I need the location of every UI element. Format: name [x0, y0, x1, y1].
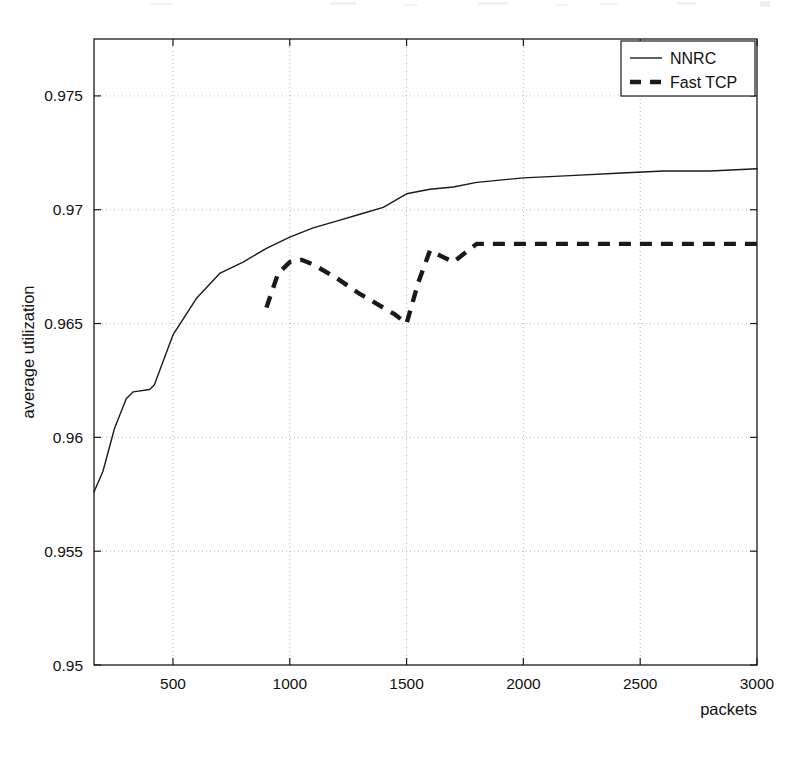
x-tick-label-3000: 3000 — [740, 675, 775, 692]
average-utilization-line-chart: 50010001500200025003000 0.950.9550.960.9… — [0, 0, 804, 758]
y-tick-label-0.97: 0.97 — [53, 201, 83, 218]
x-tick-label-2000: 2000 — [506, 675, 541, 692]
figure-background — [0, 0, 804, 758]
y-tick-label-0.96: 0.96 — [53, 429, 83, 446]
y-tick-label-0.965: 0.965 — [44, 315, 83, 332]
y-tick-label-0.955: 0.955 — [44, 543, 83, 560]
x-tick-label-2500: 2500 — [623, 675, 658, 692]
chart-figure: 50010001500200025003000 0.950.9550.960.9… — [0, 0, 804, 758]
y-tick-label-0.95: 0.95 — [53, 657, 83, 674]
legend: NNRCFast TCP — [621, 41, 755, 96]
x-tick-label-1000: 1000 — [273, 675, 308, 692]
y-axis-title: average utilization — [19, 286, 37, 419]
x-axis-title: packets — [700, 700, 757, 718]
x-tick-label-1500: 1500 — [389, 675, 424, 692]
legend-label-fast-tcp: Fast TCP — [670, 74, 737, 91]
y-tick-label-0.975: 0.975 — [44, 87, 83, 104]
legend-label-nnrc: NNRC — [670, 50, 716, 67]
x-tick-label-500: 500 — [160, 675, 186, 692]
